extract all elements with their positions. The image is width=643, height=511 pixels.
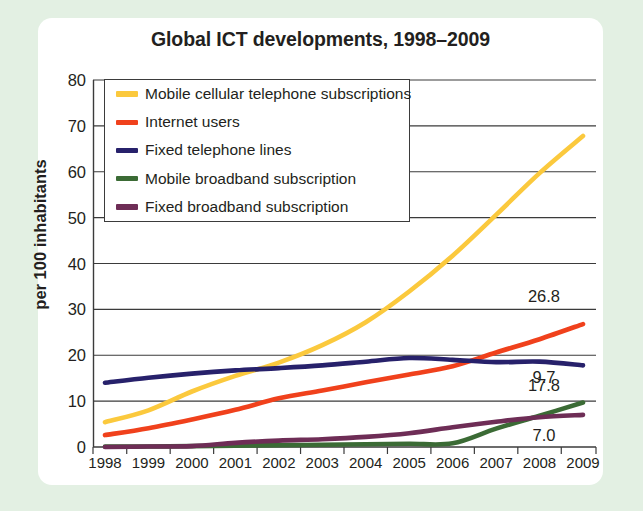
legend-item-label: Mobile broadband subscription xyxy=(145,170,356,188)
x-axis-ticks: 1998199920002001200220032004200520062007… xyxy=(88,447,599,471)
y-tick-label: 30 xyxy=(68,300,86,318)
endpoint-value-labels: 26.817.89.77.0 xyxy=(528,287,560,444)
endpoint-value-label: 7.0 xyxy=(533,426,556,444)
x-tick-label: 1998 xyxy=(88,454,121,471)
endpoint-value-label: 9.7 xyxy=(533,368,556,386)
x-tick-label: 2003 xyxy=(306,454,339,471)
legend-item-label: Fixed broadband subscription xyxy=(145,198,348,216)
y-tick-label: 80 xyxy=(68,71,86,89)
y-tick-label: 70 xyxy=(68,117,86,135)
endpoint-value-label: 26.8 xyxy=(528,287,560,305)
series-line xyxy=(105,358,583,383)
x-tick-label: 2009 xyxy=(566,454,599,471)
x-tick-label: 1999 xyxy=(132,454,165,471)
legend-color-swatch-icon xyxy=(116,91,138,97)
x-tick-label: 2001 xyxy=(219,454,252,471)
legend-item[interactable]: Fixed broadband subscription xyxy=(105,193,409,221)
chart-plot-area: 01020304050607080 1998199920002001200220… xyxy=(0,0,643,511)
x-tick-label: 2005 xyxy=(392,454,425,471)
chart-page: Global ICT developments, 1998–2009 per 1… xyxy=(0,0,643,511)
x-tick-label: 2002 xyxy=(262,454,295,471)
legend-color-swatch-icon xyxy=(116,120,138,126)
legend-color-swatch-icon xyxy=(116,148,138,154)
legend-item[interactable]: Mobile broadband subscription xyxy=(105,165,409,193)
y-tick-label: 40 xyxy=(68,255,86,273)
x-tick-label: 2004 xyxy=(349,454,382,471)
y-tick-label: 0 xyxy=(77,438,86,456)
x-tick-label: 2000 xyxy=(175,454,208,471)
legend-item[interactable]: Internet users xyxy=(105,108,409,136)
legend-item-label: Mobile cellular telephone subscriptions xyxy=(145,85,411,103)
legend-item[interactable]: Fixed telephone lines xyxy=(105,136,409,164)
chart-legend: Mobile cellular telephone subscriptionsI… xyxy=(104,79,410,222)
x-tick-label: 2007 xyxy=(479,454,512,471)
y-tick-label: 20 xyxy=(68,346,86,364)
legend-item-label: Fixed telephone lines xyxy=(145,141,292,159)
y-tick-label: 60 xyxy=(68,163,86,181)
legend-color-swatch-icon xyxy=(116,204,138,210)
y-axis-ticks: 01020304050607080 xyxy=(68,71,86,456)
legend-item[interactable]: Mobile cellular telephone subscriptions xyxy=(105,80,409,108)
legend-color-swatch-icon xyxy=(116,176,138,182)
y-tick-label: 10 xyxy=(68,392,86,410)
y-tick-label: 50 xyxy=(68,209,86,227)
x-tick-label: 2006 xyxy=(436,454,469,471)
legend-item-label: Internet users xyxy=(145,113,240,131)
x-tick-label: 2008 xyxy=(523,454,556,471)
